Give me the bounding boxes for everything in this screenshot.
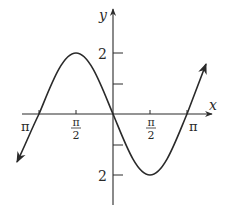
x-tick-label-pi-half-den: 2 (148, 129, 155, 142)
x-tick-label-pi: π (189, 119, 198, 134)
x-axis-label: x (209, 97, 217, 113)
y-axis-label: y (98, 7, 108, 23)
x-tick-label-pi-half-num: π (147, 116, 154, 129)
x-tick-label-neg-pi-half-den: 2 (73, 129, 80, 142)
y-tick-label-neg-2: 2 (98, 168, 107, 184)
x-tick-label-neg-pi: π (21, 119, 30, 134)
sine-graph: x y π π 2 π 2 π 2 2 (0, 0, 226, 220)
x-tick-label-neg-pi-half-num: π (72, 116, 79, 129)
graph-canvas: x y π π 2 π 2 π 2 2 (0, 0, 226, 220)
y-tick-label-pos-2: 2 (98, 46, 107, 62)
